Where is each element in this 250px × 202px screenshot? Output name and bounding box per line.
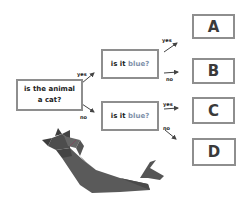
- leaf-b: B: [192, 58, 235, 84]
- lower-highlight: blue?: [128, 112, 149, 120]
- lower-prefix: is it: [111, 112, 128, 120]
- leaf-d: D: [192, 138, 236, 166]
- edge-label-lower-yes: yes: [163, 101, 173, 107]
- edge-label-root-no: no: [80, 114, 87, 120]
- upper-prefix: is it: [111, 60, 128, 68]
- arrow-upper-yes: [164, 43, 177, 52]
- root-line1: is the animal: [24, 84, 75, 95]
- question-lower: is it blue?: [101, 101, 159, 131]
- question-root: is the animal a cat?: [16, 79, 83, 111]
- edge-label-root-yes: yes: [77, 71, 87, 77]
- upper-highlight: blue?: [128, 60, 149, 68]
- leaf-c: C: [192, 97, 235, 124]
- arrow-upper-no: [164, 72, 178, 73]
- leaf-a: A: [192, 14, 235, 39]
- edge-label-lower-no: no: [163, 125, 170, 131]
- question-upper: is it blue?: [101, 49, 159, 79]
- origami-cat-illustration: [42, 128, 164, 193]
- arrow-lower-yes: [164, 108, 178, 109]
- edge-label-upper-yes: yes: [162, 37, 172, 43]
- arrow-lower-no: [165, 130, 176, 139]
- edge-label-upper-no: no: [166, 76, 173, 82]
- arrow-root-no: [82, 104, 94, 112]
- root-line2: a cat?: [24, 95, 75, 106]
